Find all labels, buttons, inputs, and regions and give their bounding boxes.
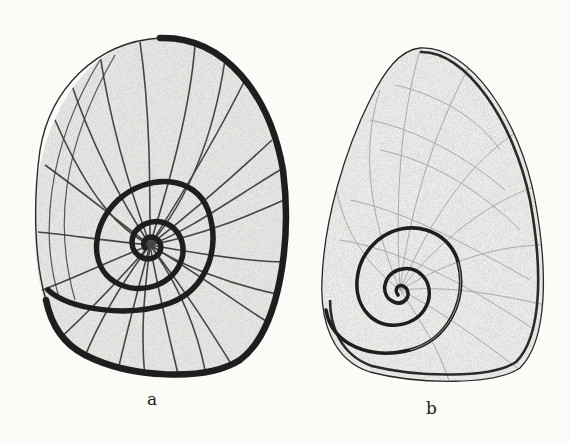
panel-label-a: a (147, 389, 157, 409)
operculum-figure (0, 0, 570, 444)
panel-b-drawing (315, 40, 555, 390)
panel-label-b: b (426, 398, 437, 418)
panel-a-drawing (30, 30, 290, 380)
